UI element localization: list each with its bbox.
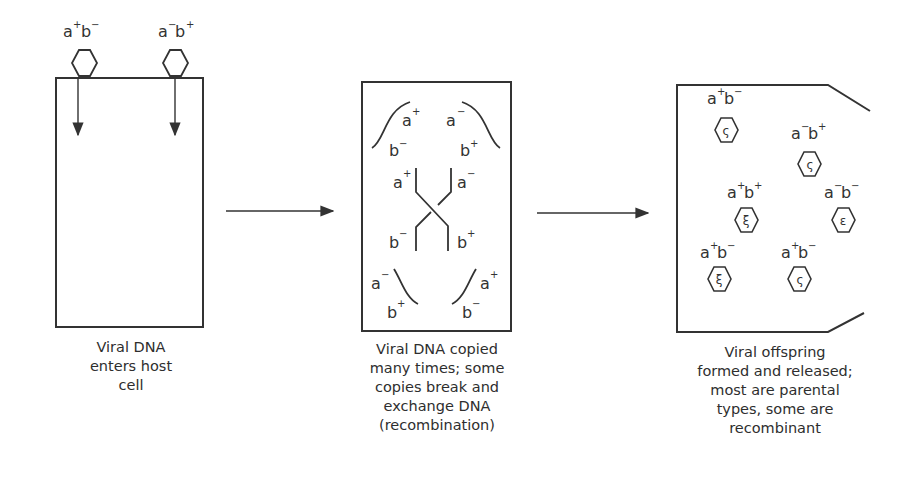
svg-text:b: b — [808, 124, 818, 143]
svg-text:ξ: ξ — [716, 273, 723, 287]
svg-text:b: b — [724, 89, 734, 108]
svg-text:a: a — [158, 22, 168, 41]
svg-text:+: + — [412, 106, 420, 117]
gene-a: a — [63, 22, 73, 41]
svg-text:a: a — [393, 173, 403, 192]
svg-text:b: b — [744, 183, 754, 202]
svg-text:a: a — [402, 111, 412, 130]
svg-text:+: + — [403, 168, 411, 179]
svg-text:ξ: ξ — [743, 214, 750, 228]
caption-release: Viral offspring formed and released; mos… — [680, 343, 870, 438]
svg-text:b: b — [175, 22, 185, 41]
svg-text:−: − — [399, 138, 407, 149]
svg-text:+: + — [754, 180, 762, 191]
svg-text:b: b — [457, 233, 467, 252]
gene-b-sign: − — [91, 19, 99, 30]
caption-entry: Viral DNA enters host cell — [56, 338, 206, 395]
svg-text:−: − — [472, 298, 480, 309]
svg-text:b: b — [462, 303, 472, 322]
caption-replication: Viral DNA copied many times; some copies… — [352, 340, 522, 435]
panel-entry: a + b − a − b + — [56, 19, 203, 327]
svg-text:ε: ε — [840, 214, 847, 228]
offspring-phage: a+ b+ ξ — [727, 180, 762, 232]
gene-b: b — [81, 22, 91, 41]
svg-text:ς: ς — [806, 158, 813, 172]
svg-text:b: b — [387, 303, 397, 322]
svg-text:a: a — [63, 22, 73, 41]
svg-text:−: − — [727, 240, 735, 251]
svg-text:−: − — [457, 106, 465, 117]
offspring-phage: a− b+ ς — [791, 121, 826, 176]
svg-text:+: + — [186, 19, 194, 30]
svg-text:−: − — [399, 228, 407, 239]
gene-b: b — [175, 22, 185, 41]
offspring-phage: a+ b− ξ — [700, 240, 735, 291]
svg-text:+: + — [397, 298, 405, 309]
svg-text:a: a — [707, 89, 717, 108]
svg-text:a: a — [480, 274, 490, 293]
svg-text:−: − — [467, 168, 475, 179]
svg-text:b: b — [841, 183, 851, 202]
svg-text:ς: ς — [796, 273, 803, 287]
svg-text:−: − — [734, 86, 742, 97]
offspring-phage: a− b− ε — [824, 180, 859, 232]
svg-text:−: − — [851, 180, 859, 191]
phage-hexagon-icon — [163, 50, 188, 76]
gene-labels: a + b − a − b + a + a − b − b + a − b + … — [371, 106, 498, 322]
svg-text:+: + — [470, 138, 478, 149]
svg-text:a: a — [791, 124, 801, 143]
phage-hexagon-icon — [72, 50, 97, 76]
gene-a: a — [158, 22, 168, 41]
svg-text:a: a — [457, 173, 467, 192]
svg-text:ς: ς — [722, 124, 729, 138]
offspring-phage: a+ b− ς — [707, 86, 742, 142]
svg-text:+: + — [490, 269, 498, 280]
gene-b-sign: + — [186, 19, 194, 30]
svg-text:a: a — [371, 274, 381, 293]
svg-text:+: + — [467, 228, 475, 239]
replication-cell-box — [362, 82, 511, 331]
svg-text:b: b — [389, 141, 399, 160]
svg-text:a: a — [824, 183, 834, 202]
svg-text:+: + — [818, 121, 826, 132]
svg-text:−: − — [91, 19, 99, 30]
svg-text:−: − — [381, 269, 389, 280]
svg-text:b: b — [798, 243, 808, 262]
svg-text:a: a — [446, 111, 456, 130]
svg-text:−: − — [808, 240, 816, 251]
svg-text:a: a — [781, 243, 791, 262]
svg-text:b: b — [81, 22, 91, 41]
svg-text:b: b — [717, 243, 727, 262]
svg-text:a: a — [727, 183, 737, 202]
svg-text:a: a — [700, 243, 710, 262]
panel-release: a+ b− ς a− b+ ς a+ b+ ξ a− b− ε a+ — [677, 85, 870, 332]
dna-strand-crossover-1 — [416, 168, 448, 251]
panel-replication: a + b − a − b + a + a − b − b + a − b + … — [362, 82, 511, 331]
offspring-phage: a+ b− ς — [781, 240, 816, 291]
svg-text:b: b — [460, 141, 470, 160]
svg-text:b: b — [389, 233, 399, 252]
